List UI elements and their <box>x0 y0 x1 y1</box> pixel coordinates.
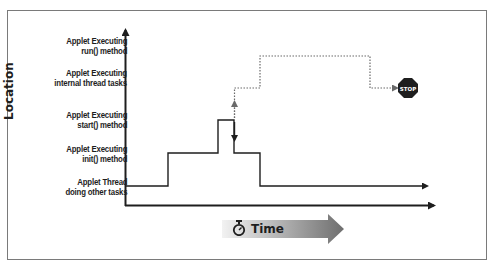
x-axis-title: Time <box>251 222 284 236</box>
solid-execution-path <box>125 120 427 186</box>
stop-sign-label: STOP <box>400 86 416 92</box>
stop-sign-icon: STOP <box>398 78 418 98</box>
stopwatch-icon <box>232 220 246 236</box>
dotted-thread-path <box>235 56 398 118</box>
